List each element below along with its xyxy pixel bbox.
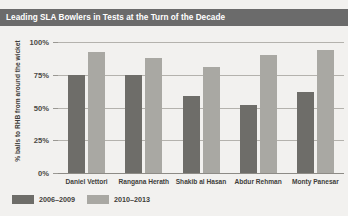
bar bbox=[68, 75, 85, 173]
chart-legend: 2006–20092010–2013 bbox=[12, 195, 150, 204]
y-tick-mark bbox=[53, 173, 58, 174]
bar bbox=[183, 96, 200, 173]
chart-title-bar: Leading SLA Bowlers in Tests at the Turn… bbox=[0, 9, 348, 26]
x-tick-label: Abdur Rehman bbox=[235, 178, 282, 185]
y-tick-label: 25% bbox=[9, 136, 49, 145]
bar bbox=[88, 52, 105, 173]
x-tick-label: Shakib al Hasan bbox=[176, 178, 227, 185]
legend-label: 2010–2013 bbox=[114, 195, 150, 204]
bar bbox=[297, 92, 314, 173]
bar bbox=[260, 55, 277, 173]
chart-figure: Leading SLA Bowlers in Tests at the Turn… bbox=[0, 0, 348, 216]
bar-group bbox=[125, 42, 162, 173]
bar-group bbox=[297, 42, 334, 173]
y-tick-label: 50% bbox=[9, 103, 49, 112]
legend-swatch bbox=[12, 195, 34, 204]
y-tick-label: 75% bbox=[9, 70, 49, 79]
legend-item[interactable]: 2010–2013 bbox=[87, 195, 150, 204]
legend-swatch bbox=[87, 195, 109, 204]
bar bbox=[203, 67, 220, 173]
bar-group bbox=[240, 42, 277, 173]
y-tick-label: 100% bbox=[9, 38, 49, 47]
bar-group bbox=[68, 42, 105, 173]
bar bbox=[145, 58, 162, 173]
x-tick-label: Monty Panesar bbox=[292, 178, 339, 185]
legend-item[interactable]: 2006–2009 bbox=[12, 195, 75, 204]
bar bbox=[240, 105, 257, 173]
y-axis-title: % balls to RHB from around the wicket bbox=[12, 28, 24, 174]
bar bbox=[125, 75, 142, 173]
legend-label: 2006–2009 bbox=[39, 195, 75, 204]
x-tick-label: Rangana Herath bbox=[119, 178, 170, 185]
bar bbox=[317, 50, 334, 173]
gridline bbox=[58, 173, 344, 174]
plot-area: 0%25%50%75%100% bbox=[58, 42, 344, 173]
chart-title: Leading SLA Bowlers in Tests at the Turn… bbox=[0, 13, 225, 22]
x-tick-label: Daniel Vettori bbox=[66, 178, 108, 185]
bar-group bbox=[183, 42, 220, 173]
bar-series-container bbox=[58, 42, 344, 173]
y-tick-label: 0% bbox=[9, 169, 49, 178]
